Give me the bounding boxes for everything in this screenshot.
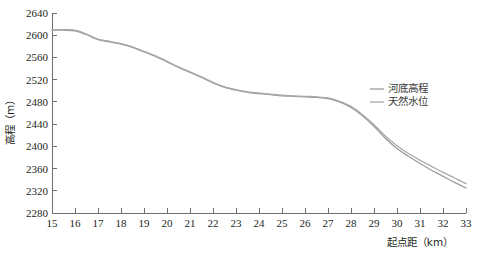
x-axis-tick-label: 28 <box>346 217 358 229</box>
x-axis-tick-label: 33 <box>461 217 473 229</box>
x-axis-tick-label: 26 <box>300 217 312 229</box>
x-axis-title-label: 起点距（km） <box>387 236 453 248</box>
y-axis-tick-label: 2440 <box>26 118 49 130</box>
x-axis-tick-label: 16 <box>70 217 82 229</box>
y-axis-title-label: 高程（m） <box>4 95 16 145</box>
legend-label-2: 天然水位 <box>388 95 429 107</box>
y-axis-tick-label: 2360 <box>26 163 49 175</box>
x-axis-tick-label: 22 <box>208 217 219 229</box>
y-axis-tick-label: 2560 <box>26 51 49 63</box>
x-axis-tick-label: 29 <box>369 217 381 229</box>
y-axis-tick-label: 2600 <box>26 29 49 41</box>
x-axis-tick-label: 25 <box>277 217 289 229</box>
x-axis-tick-label: 20 <box>162 217 174 229</box>
x-axis-tick-label: 15 <box>47 217 59 229</box>
x-axis-tick-label: 32 <box>438 217 449 229</box>
y-axis-tick-label: 2520 <box>26 74 49 86</box>
y-axis-tick-label: 2640 <box>26 7 49 19</box>
x-axis-tick-label: 27 <box>323 217 335 229</box>
y-axis-tick-label: 2280 <box>26 207 49 219</box>
x-axis-tick-label: 24 <box>254 217 266 229</box>
x-axis-tick-label: 31 <box>415 217 426 229</box>
x-axis-tick-label: 23 <box>231 217 243 229</box>
legend-label-1: 河底高程 <box>388 82 429 94</box>
x-axis-tick-label: 19 <box>139 217 151 229</box>
y-axis-title: 高程（m） <box>4 95 16 145</box>
x-axis-tick-label: 21 <box>185 217 196 229</box>
y-axis-tick-label: 2480 <box>26 96 49 108</box>
chart-screenshot: 2280232023602400244024802520256026002640… <box>0 0 477 255</box>
x-axis-title: 起点距（km） <box>387 236 453 248</box>
x-axis-tick-label: 18 <box>116 217 128 229</box>
y-axis-tick-label: 2400 <box>26 140 49 152</box>
river-profile-chart: 2280232023602400244024802520256026002640… <box>0 0 477 255</box>
x-axis-tick-label: 30 <box>392 217 404 229</box>
x-axis-tick-label: 17 <box>93 217 105 229</box>
y-axis-tick-label: 2320 <box>26 185 49 197</box>
